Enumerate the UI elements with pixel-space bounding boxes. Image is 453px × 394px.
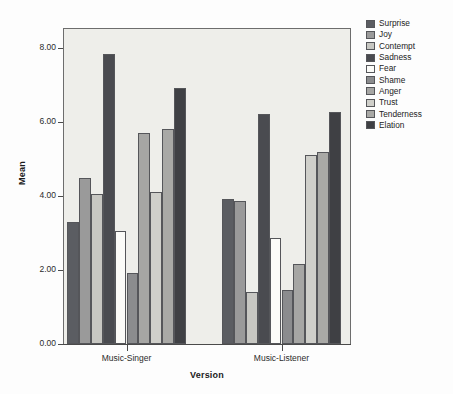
bar-joy-music-singer — [79, 178, 91, 344]
bar-tenderness-music-singer — [162, 129, 174, 344]
legend-item-tenderness[interactable]: Tenderness — [366, 108, 452, 119]
legend-swatch-icon — [366, 121, 375, 129]
legend-item-label: Elation — [379, 121, 404, 130]
legend-swatch-icon — [366, 54, 375, 62]
legend-item-label: Shame — [379, 76, 405, 85]
bar-tenderness-music-listener — [317, 152, 329, 344]
y-axis-tick-label: 4.00 — [22, 191, 56, 200]
plot-area — [64, 29, 350, 344]
x-axis-title: Version — [63, 370, 351, 380]
x-axis-tick-mark — [127, 345, 128, 351]
y-axis-tick-labels: 0.002.004.006.008.00 — [18, 0, 56, 394]
bar-elation-music-listener — [329, 112, 341, 344]
legend-swatch-icon — [366, 31, 375, 39]
bar-surprise-music-listener — [222, 199, 234, 344]
legend-item-label: Sadness — [379, 53, 411, 62]
bar-surprise-music-singer — [67, 222, 79, 344]
bar-trust-music-listener — [305, 155, 317, 344]
bar-trust-music-singer — [150, 192, 162, 344]
legend-item-joy[interactable]: Joy — [366, 29, 452, 40]
legend-item-label: Tenderness — [379, 110, 422, 119]
bar-chart-figure: Mean 0.002.004.006.008.00 Music-SingerMu… — [0, 0, 453, 394]
legend-item-label: Anger — [379, 87, 401, 96]
legend-item-anger[interactable]: Anger — [366, 86, 452, 97]
x-axis-tick-label-music-singer: Music-Singer — [67, 353, 187, 363]
bar-fear-music-singer — [115, 231, 127, 344]
bar-fear-music-listener — [270, 238, 282, 344]
legend-item-label: Contempt — [379, 42, 415, 51]
bar-anger-music-listener — [293, 264, 305, 344]
legend-swatch-icon — [366, 76, 375, 84]
legend-item-label: Fear — [379, 64, 396, 73]
x-axis-tick-label-music-listener: Music-Listener — [222, 353, 342, 363]
legend-swatch-icon — [366, 65, 375, 73]
legend-item-trust[interactable]: Trust — [366, 97, 452, 108]
bar-shame-music-singer — [127, 273, 139, 344]
legend-item-sadness[interactable]: Sadness — [366, 52, 452, 63]
x-axis-line — [63, 344, 351, 345]
bar-anger-music-singer — [138, 133, 150, 344]
legend-item-shame[interactable]: Shame — [366, 74, 452, 85]
y-axis-tick-label: 6.00 — [22, 117, 56, 126]
legend-swatch-icon — [366, 42, 375, 50]
legend-item-fear[interactable]: Fear — [366, 63, 452, 74]
x-axis-tick-mark — [282, 345, 283, 351]
legend-swatch-icon — [366, 99, 375, 107]
legend-item-label: Trust — [379, 98, 398, 107]
legend-item-label: Joy — [379, 30, 392, 39]
y-axis-tick-label: 2.00 — [22, 265, 56, 274]
legend-swatch-icon — [366, 20, 375, 28]
legend-item-elation[interactable]: Elation — [366, 120, 452, 131]
bar-sadness-music-listener — [258, 114, 270, 344]
legend: SurpriseJoyContemptSadnessFearShameAnger… — [366, 18, 452, 131]
y-axis-tick-label: 0.00 — [22, 339, 56, 348]
y-axis-tick-label: 8.00 — [22, 43, 56, 52]
legend-item-contempt[interactable]: Contempt — [366, 41, 452, 52]
bar-contempt-music-listener — [246, 292, 258, 344]
bar-shame-music-listener — [282, 290, 294, 344]
bar-contempt-music-singer — [91, 194, 103, 344]
bar-sadness-music-singer — [103, 54, 115, 344]
legend-swatch-icon — [366, 87, 375, 95]
legend-item-surprise[interactable]: Surprise — [366, 18, 452, 29]
bar-joy-music-listener — [234, 201, 246, 344]
bar-elation-music-singer — [174, 88, 186, 344]
legend-item-label: Surprise — [379, 19, 410, 28]
legend-swatch-icon — [366, 110, 375, 118]
